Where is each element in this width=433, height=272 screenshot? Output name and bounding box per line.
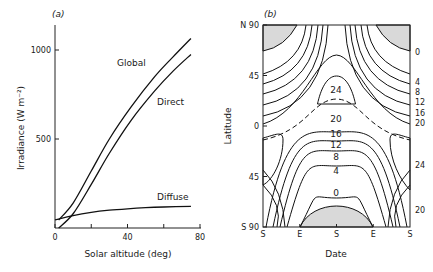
lat-tick-label: 45 xyxy=(249,173,259,182)
date-tick-label: E xyxy=(297,230,302,239)
lat-tick-label: N 90 xyxy=(240,21,259,30)
y-tick-label: 1000 xyxy=(31,46,51,55)
panel-a-x-label: Solar altitude (deg) xyxy=(84,249,171,259)
contour-label-12: 12 xyxy=(330,140,341,150)
polar-night-south xyxy=(300,206,373,227)
date-tick-label: S xyxy=(407,230,412,239)
lat-tick-label: S 90 xyxy=(241,223,259,232)
panel-b: (b) SESESN 9045045S 900481216202420 Date… xyxy=(223,9,425,259)
contour-right-label: 12 xyxy=(415,98,425,107)
contour-label-8: 8 xyxy=(333,152,339,162)
contour-24-south-left xyxy=(263,134,283,185)
panel-b-y-label: Latitude xyxy=(223,107,233,145)
date-tick-label: E xyxy=(371,230,376,239)
panel-b-label: (b) xyxy=(264,9,277,19)
contour-right-label: 20 xyxy=(415,119,425,128)
contour-right-label: 20 xyxy=(415,206,425,215)
annotation-global: Global xyxy=(117,58,146,68)
panel-b-x-label: Date xyxy=(325,249,347,259)
contour-right-label: 16 xyxy=(415,109,425,118)
contour-24-south-right xyxy=(390,134,410,190)
y-tick-label: 500 xyxy=(36,135,51,144)
contour-right-label: 8 xyxy=(415,88,420,97)
contour-label-24-north: 24 xyxy=(330,85,342,95)
lat-tick-label: 0 xyxy=(254,122,259,131)
panel-a-label: (a) xyxy=(52,9,65,19)
contour-label-4: 4 xyxy=(333,166,339,176)
x-tick-label: 0 xyxy=(52,233,57,242)
annotation-diffuse: Diffuse xyxy=(157,192,189,202)
contour-right-label: 24 xyxy=(415,161,425,170)
x-tick-label: 40 xyxy=(122,233,132,242)
polar-night-nw xyxy=(263,25,297,51)
annotation-direct: Direct xyxy=(157,97,184,107)
date-tick-label: S xyxy=(260,230,265,239)
panel-a-y-label: Irradiance (W m⁻²) xyxy=(16,86,26,170)
figure: (a) 040805001000 Global Direct Diffuse S… xyxy=(0,0,433,272)
polar-night-ne xyxy=(376,25,410,51)
contour-label-16: 16 xyxy=(330,129,342,139)
contour-right-label: 4 xyxy=(415,78,420,87)
date-tick-label: S xyxy=(334,230,339,239)
contour-right-label: 0 xyxy=(415,48,420,57)
series-line-diffuse xyxy=(55,206,191,220)
contour-label-0: 0 xyxy=(333,188,339,198)
panel-a: (a) 040805001000 Global Direct Diffuse S… xyxy=(16,9,205,259)
lat-tick-label: 45 xyxy=(249,72,259,81)
x-tick-label: 80 xyxy=(195,233,205,242)
contour-label-20: 20 xyxy=(330,114,342,124)
